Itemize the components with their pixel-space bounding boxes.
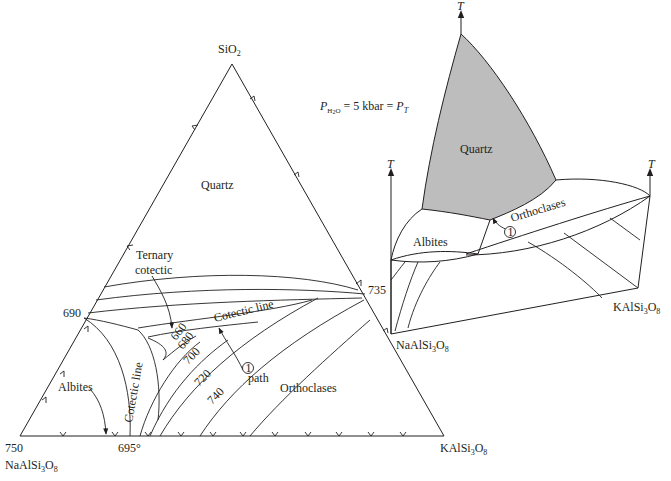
ternary-diagram: 1 SiO2 Quartz Ternary cotectic Cotectic … (5, 42, 487, 474)
field-label-quartz: Quartz (201, 178, 234, 192)
ternary-cotectic-label-1: Ternary (136, 248, 173, 262)
field-label-orthoclases: Orthoclases (280, 381, 337, 395)
t-label-left: T (387, 157, 395, 171)
apex-albite-label: NaAlSi3O8 (5, 458, 58, 474)
field-label-albites: Albites (58, 380, 93, 394)
block-label-quartz: Quartz (460, 142, 493, 156)
quartz-liquidus-surface (422, 34, 556, 220)
isotherm-740: 740 (204, 384, 227, 407)
temp-label-695: 695° (118, 441, 141, 455)
temp-label-735: 735 (368, 283, 386, 297)
path-label: path (248, 371, 269, 385)
block-corner-orthoclase: KAlSi3O8 (613, 300, 660, 316)
temp-label-690: 690 (63, 306, 81, 320)
ternary-cotectic-arrow (152, 276, 172, 328)
pressure-label: PH2O = 5 kbar = PT (319, 99, 409, 115)
ternary-cotectic-label-2: cotectic (135, 263, 172, 277)
orthoclase-dome-top (556, 179, 650, 196)
t-label-top: T (457, 0, 465, 13)
block-diagram: T T T 1 Quartz Albites Orthoclases (387, 0, 660, 354)
temp-label-750: 750 (5, 441, 23, 455)
apex-orthoclase-label: KAlSi3O8 (440, 441, 487, 457)
t-label-right: T (648, 157, 656, 171)
apex-sio2-label: SiO2 (218, 42, 241, 58)
phase-diagram: 1 SiO2 Quartz Ternary cotectic Cotectic … (0, 0, 671, 481)
albite-orthoclase-boundary (478, 220, 490, 254)
albite-base-lens (391, 252, 478, 262)
edge-arrows (42, 96, 406, 436)
block-path-marker-label: 1 (508, 225, 514, 239)
cotectic-line-label-upper: Cotectic line (212, 297, 275, 325)
cotectic-line-label-lower: Cotectic line (121, 361, 145, 423)
block-label-albites: Albites (413, 235, 448, 249)
block-corner-albite: NaAlSi3O8 (396, 338, 449, 354)
albites-arrow (90, 389, 106, 434)
isotherm-720: 720 (191, 366, 214, 389)
